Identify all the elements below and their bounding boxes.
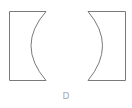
figure-label: D [0,91,132,101]
right-concave-shape [88,12,126,81]
left-concave-shape [10,12,47,81]
